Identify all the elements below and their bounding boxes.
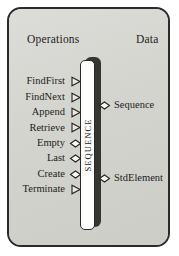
operation-row[interactable]: Append [12,105,82,120]
operation-row[interactable]: Retrieve [12,120,82,135]
bar-face: SEQUENCE [80,60,95,230]
data-column-heading: Data [136,33,159,45]
operation-label: FindNext [25,92,69,103]
operation-label: Retrieve [29,123,69,134]
operation-row[interactable]: FindFirst [12,74,82,89]
diamond-icon [98,172,111,185]
operation-label: Last [47,153,69,164]
operations-column-heading: Operations [27,33,79,45]
data-item[interactable]: Sequence [98,99,154,112]
operation-row[interactable]: Last [12,151,82,166]
data-item[interactable]: StdElement [98,172,163,185]
operation-row[interactable]: Empty [12,136,82,151]
sequence-module-bar[interactable]: SEQUENCE [80,60,100,230]
operation-label: Terminate [23,184,69,195]
operation-label: Create [38,169,69,180]
operation-row[interactable]: Terminate [12,182,82,197]
operation-label: Append [32,107,69,118]
operations-list: FindFirst FindNext Append [12,74,82,197]
operation-row[interactable]: Create [12,166,82,181]
operation-row[interactable]: FindNext [12,89,82,104]
diamond-icon [98,99,111,112]
operation-label: Empty [37,138,69,149]
module-name-label: SEQUENCE [83,118,93,171]
operation-label: FindFirst [26,76,69,87]
module-diagram: Operations Data FindFirst FindNext Appen… [0,0,179,256]
data-item-label: Sequence [114,100,154,111]
data-item-label: StdElement [114,173,163,184]
